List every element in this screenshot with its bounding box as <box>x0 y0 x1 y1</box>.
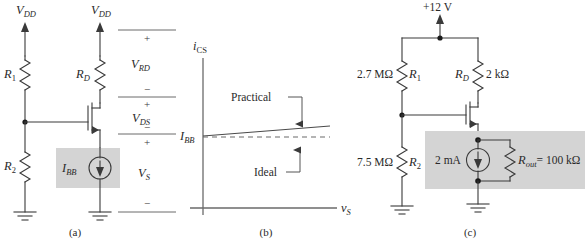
panel-b-ideal-leader <box>286 150 300 172</box>
panel-b-y-axis-label: iCS <box>193 39 207 55</box>
panel-a-caption: (a) <box>69 226 82 239</box>
circuit-figure-svg: VDD R1 R2 <box>0 0 585 242</box>
panel-a-supply-right-label: VDD <box>91 3 112 19</box>
panel-c-supply-arrow <box>436 14 444 38</box>
panel-a-transistor <box>25 103 100 150</box>
panel-a-resistor-r2 <box>20 122 30 212</box>
polarity-minus-vds: − <box>144 121 150 133</box>
panel-c-resistor-r2 <box>397 115 407 206</box>
panel-b-ibb-label: IBB <box>179 129 195 145</box>
panel-c-ground-left <box>391 206 413 214</box>
panel-a-rd-label: RD <box>75 67 91 83</box>
panel-c-current-value: 2 mA <box>435 154 462 166</box>
panel-c-r1-label: R1 <box>408 67 421 83</box>
panel-a-ground-right <box>89 212 111 220</box>
panel-a-vrd-label: VRD <box>131 57 151 73</box>
panel-c-resistor-r1 <box>397 38 407 115</box>
panel-b-practical-curve <box>203 126 330 136</box>
panel-b-practical-leader <box>288 97 302 124</box>
polarity-minus-vs: − <box>144 197 150 209</box>
polarity-plus-vs: + <box>144 136 150 148</box>
panel-c: +12 V 2.7 MΩ R1 7.5 MΩ <box>357 1 585 239</box>
polarity-plus-vrd: + <box>144 32 150 44</box>
panel-a-supply-left-arrow <box>21 22 29 56</box>
panel-b: iCS vS IBB Practical Ideal (b <box>179 39 352 239</box>
panel-a-supply-left-label: VDD <box>16 3 37 19</box>
panel-a-r2-label: R2 <box>3 159 16 175</box>
panel-a-ground-left <box>14 212 36 220</box>
panel-c-rd-value: 2 kΩ <box>486 68 509 80</box>
panel-a-voltage-column: + VRD − + VDS − + VS − <box>118 30 176 212</box>
panel-a: VDD R1 R2 <box>3 3 176 239</box>
figure-root: VDD R1 R2 <box>0 0 585 242</box>
panel-c-supply-label: +12 V <box>423 1 453 13</box>
panel-a-resistor-rd <box>95 56 105 103</box>
panel-b-caption: (b) <box>260 226 273 239</box>
panel-c-rd-label: RD <box>454 67 470 83</box>
panel-c-r1-value: 2.7 MΩ <box>357 68 393 80</box>
panel-c-r2-label: R2 <box>408 155 421 171</box>
panel-b-ideal-label: Ideal <box>254 166 277 178</box>
polarity-plus-vds: + <box>144 98 150 110</box>
panel-a-vs-label: VS <box>138 166 151 182</box>
panel-c-caption: (c) <box>464 226 477 239</box>
panel-a-resistor-r1 <box>20 56 30 122</box>
polarity-minus-vrd: − <box>144 83 150 95</box>
panel-c-r2-value: 7.5 MΩ <box>357 156 393 168</box>
panel-a-r1-label: R1 <box>3 67 16 83</box>
panel-c-supply-node <box>437 35 442 40</box>
panel-a-supply-right-arrow <box>96 22 104 56</box>
panel-c-resistor-rd <box>473 38 483 103</box>
panel-b-x-axis-label: vS <box>341 201 352 217</box>
panel-c-ground-center <box>467 204 489 212</box>
panel-b-practical-label: Practical <box>231 91 271 103</box>
